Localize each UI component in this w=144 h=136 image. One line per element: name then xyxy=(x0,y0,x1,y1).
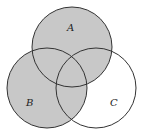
venn-diagram: A B C xyxy=(0,0,144,136)
set-b-label: B xyxy=(25,97,33,108)
set-c-label: C xyxy=(110,97,118,108)
set-a-label: A xyxy=(66,22,74,33)
